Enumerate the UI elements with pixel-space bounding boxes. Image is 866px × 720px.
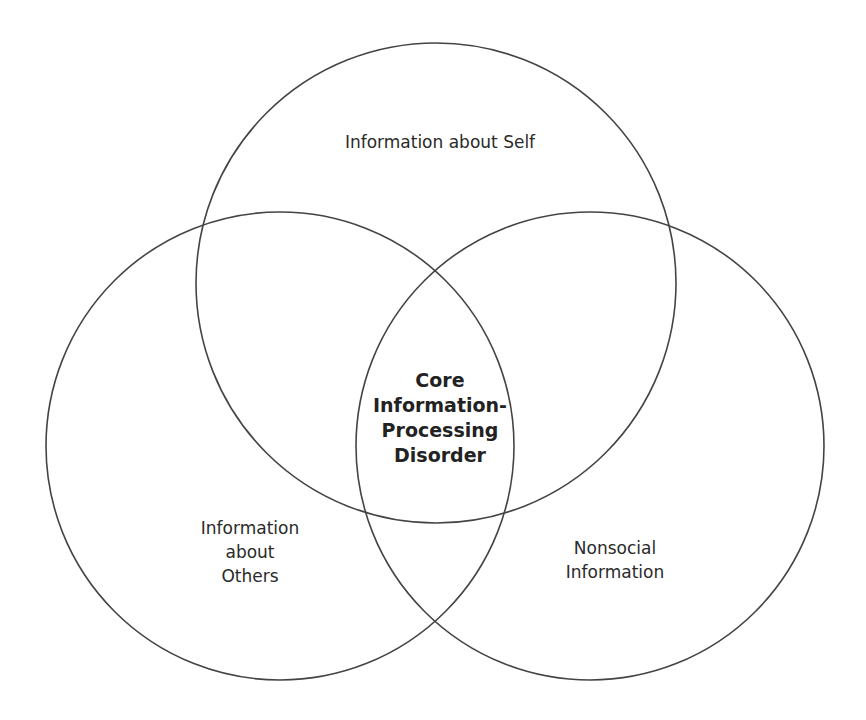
- label-line: Core: [373, 368, 507, 393]
- label-core-information-processing-disorder: Core Information- Processing Disorder: [373, 368, 507, 468]
- label-line: Nonsocial: [566, 536, 664, 560]
- label-line: Processing: [373, 418, 507, 443]
- label-information-about-self: Information about Self: [345, 130, 535, 154]
- label-line: Information-: [373, 393, 507, 418]
- label-line: Information: [201, 516, 299, 540]
- label-line: Information about Self: [345, 130, 535, 154]
- label-nonsocial-information: Nonsocial Information: [566, 536, 664, 584]
- label-line: Others: [201, 564, 299, 588]
- label-line: about: [201, 540, 299, 564]
- venn-diagram: [0, 0, 866, 720]
- label-line: Disorder: [373, 443, 507, 468]
- label-information-about-others: Information about Others: [201, 516, 299, 588]
- label-line: Information: [566, 560, 664, 584]
